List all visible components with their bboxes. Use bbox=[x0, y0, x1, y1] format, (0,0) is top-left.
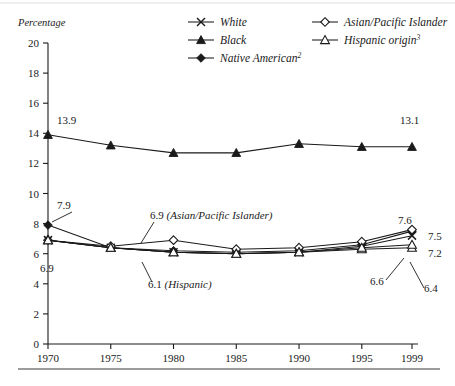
legend-item-black[interactable]: Black bbox=[188, 34, 247, 46]
leader-line bbox=[141, 222, 154, 243]
data-point bbox=[295, 139, 304, 147]
ann-api-1999: 7.6 bbox=[398, 214, 412, 226]
legend-label: Black bbox=[220, 34, 247, 46]
ann-hispanic-1980: 6.1 (Hispanic) bbox=[142, 262, 212, 291]
x-tick-label: 1990 bbox=[288, 352, 311, 364]
x-tick-label: 1970 bbox=[37, 352, 60, 364]
ann-hispanic-1999: 6.4 bbox=[410, 262, 438, 294]
x-tick-label: 1980 bbox=[163, 352, 186, 364]
ann-white-1970: 6.9 bbox=[40, 262, 54, 274]
ann-black-1999: 13.1 bbox=[400, 114, 419, 126]
legend-label: Hispanic origin3 bbox=[343, 33, 421, 47]
chart-figure: Percentage WhiteBlackNative American2Asi… bbox=[0, 0, 455, 386]
annotations: 13.913.17.96.96.9 (Asian/Pacific Islande… bbox=[40, 114, 442, 294]
leader-line bbox=[142, 262, 152, 282]
x-tick-label: 1985 bbox=[225, 352, 248, 364]
leader-line bbox=[410, 262, 424, 288]
legend-item-hispanic-origin[interactable]: Hispanic origin3 bbox=[312, 33, 421, 47]
annotation-label: 6.6 bbox=[370, 275, 384, 287]
y-tick-label: 12 bbox=[28, 157, 39, 169]
y-tick-label: 4 bbox=[34, 278, 40, 290]
legend-label: Native American2 bbox=[219, 51, 301, 64]
annotation-label: 7.9 bbox=[57, 199, 71, 211]
leader-line bbox=[386, 258, 404, 280]
annotation-label: 7.5 bbox=[428, 230, 442, 242]
legend-label: White bbox=[220, 16, 247, 28]
leader-line bbox=[52, 212, 72, 222]
y-tick-label: 14 bbox=[28, 127, 40, 139]
y-tick-label: 8 bbox=[34, 218, 40, 230]
annotation-label: 6.9 (Asian/Pacific Islander) bbox=[150, 209, 273, 222]
open-diamond-icon bbox=[321, 18, 330, 27]
ann-api-1980: 6.9 (Asian/Pacific Islander) bbox=[141, 209, 273, 243]
data-point bbox=[408, 240, 417, 248]
ann-black-1970: 13.9 bbox=[57, 114, 77, 126]
y-tick-label: 2 bbox=[34, 308, 40, 320]
data-point bbox=[44, 221, 53, 230]
x-tick-label: 1995 bbox=[351, 352, 374, 364]
legend-item-asian-pacific-islander[interactable]: Asian/Pacific Islander bbox=[312, 16, 448, 29]
legend: WhiteBlackNative American2Asian/Pacific … bbox=[188, 16, 448, 64]
ann-black2-1999: 6.6 bbox=[370, 258, 404, 287]
annotation-label: 6.9 bbox=[40, 262, 54, 274]
legend-item-native-american[interactable]: Native American2 bbox=[188, 51, 301, 64]
data-point bbox=[44, 130, 53, 138]
ann-native-1999: 7.5 bbox=[428, 230, 442, 242]
chart-svg: Percentage WhiteBlackNative American2Asi… bbox=[0, 0, 455, 386]
legend-label: Asian/Pacific Islander bbox=[343, 16, 448, 29]
annotation-label: 6.4 bbox=[424, 282, 438, 294]
y-tick-label: 20 bbox=[28, 37, 40, 49]
annotation-label: 7.6 bbox=[398, 214, 412, 226]
legend-item-white[interactable]: White bbox=[188, 16, 247, 28]
filled-diamond-icon bbox=[197, 54, 206, 63]
annotation-label: 13.1 bbox=[400, 114, 419, 126]
y-tick-label: 16 bbox=[28, 97, 40, 109]
x-tick-label: 1975 bbox=[100, 352, 123, 364]
y-axis-title: Percentage bbox=[17, 17, 66, 28]
y-tick-label: 10 bbox=[28, 188, 40, 200]
axes: 0246810121416182019701975198019851990199… bbox=[28, 37, 424, 364]
x-tick-label: 1999 bbox=[401, 352, 424, 364]
y-tick-label: 0 bbox=[34, 338, 40, 350]
series-lines bbox=[44, 130, 417, 257]
y-tick-label: 6 bbox=[34, 248, 40, 260]
annotation-label: 6.1 (Hispanic) bbox=[148, 278, 212, 291]
y-tick-label: 18 bbox=[28, 67, 40, 79]
series-black bbox=[44, 130, 417, 156]
ann-native-1970: 7.9 bbox=[52, 199, 72, 222]
data-point bbox=[169, 236, 178, 245]
ann-white-1999: 7.2 bbox=[428, 247, 442, 259]
annotation-label: 13.9 bbox=[57, 114, 77, 126]
annotation-label: 7.2 bbox=[428, 247, 442, 259]
